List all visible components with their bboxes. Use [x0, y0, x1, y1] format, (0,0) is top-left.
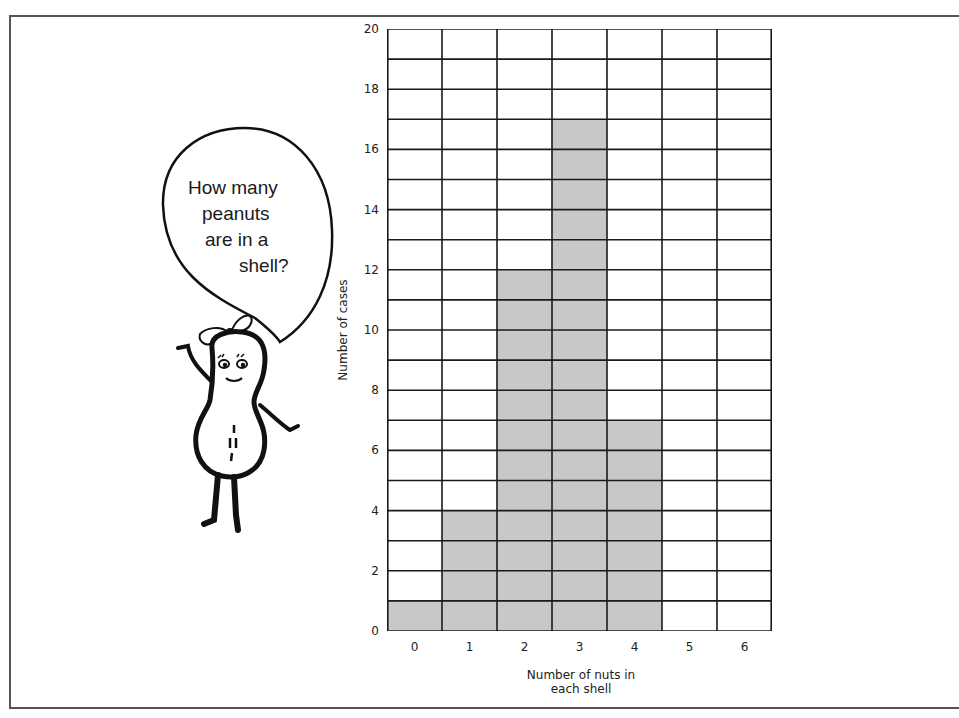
x-tick-label: 4 [615, 640, 655, 654]
x-axis-label: Number of nuts in each shell [481, 668, 681, 696]
x-tick-label: 2 [505, 640, 545, 654]
x-tick-label: 3 [560, 640, 600, 654]
y-tick-label: 0 [371, 624, 379, 638]
y-tick-label: 14 [364, 203, 379, 217]
speech-bubble-line-4: shell? [239, 254, 289, 278]
y-tick-label: 20 [364, 22, 379, 36]
y-tick-label: 8 [371, 383, 379, 397]
y-tick-label: 12 [364, 263, 379, 277]
x-tick-label: 1 [450, 640, 490, 654]
bar-0 [387, 601, 442, 631]
y-tick-label: 4 [371, 504, 379, 518]
bar-4 [607, 420, 662, 631]
x-axis-label-line-1: Number of nuts in [481, 668, 681, 682]
bar-3 [552, 119, 607, 631]
x-tick-label: 0 [395, 640, 435, 654]
x-tick-label: 6 [725, 640, 765, 654]
y-tick-label: 16 [364, 142, 379, 156]
y-tick-label: 18 [364, 82, 379, 96]
x-axis-label-line-2: each shell [481, 682, 681, 696]
histogram-bars [387, 29, 772, 631]
y-axis-label: Number of cases [336, 279, 350, 380]
histogram-plot-area [387, 29, 772, 630]
x-tick-label: 5 [670, 640, 710, 654]
y-tick-label: 10 [364, 323, 379, 337]
speech-bubble-line-3: are in a [205, 228, 268, 252]
peanut-illustration: How many peanuts are in a shell? [150, 120, 350, 550]
speech-bubble-line-2: peanuts [202, 202, 270, 226]
y-tick-label: 6 [371, 443, 379, 457]
speech-bubble-line-1: How many [188, 176, 278, 200]
y-tick-label: 2 [371, 564, 379, 578]
